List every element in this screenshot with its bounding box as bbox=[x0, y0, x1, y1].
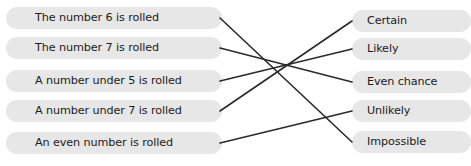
likelihood-pill-impossible[interactable]: Impossible bbox=[352, 131, 471, 153]
likelihood-pill-certain[interactable]: Certain bbox=[352, 10, 471, 32]
connection-line-under-7-certain[interactable] bbox=[220, 21, 352, 111]
likelihood-label: Unlikely bbox=[367, 105, 410, 116]
likelihood-label: Even chance bbox=[367, 76, 437, 87]
statement-label: A number under 5 is rolled bbox=[35, 75, 182, 86]
statement-label: The number 7 is rolled bbox=[35, 42, 159, 53]
statement-pill-under-5[interactable]: A number under 5 is rolled bbox=[6, 70, 222, 92]
connection-line-number-6-impossible[interactable] bbox=[220, 18, 352, 142]
statement-pill-number-6[interactable]: The number 6 is rolled bbox=[6, 7, 222, 29]
statement-label: A number under 7 is rolled bbox=[35, 105, 182, 116]
likelihood-pill-unlikely[interactable]: Unlikely bbox=[352, 100, 471, 122]
statement-label: An even number is rolled bbox=[35, 137, 173, 148]
statement-pill-number-7[interactable]: The number 7 is rolled bbox=[6, 37, 222, 59]
matching-worksheet: The number 6 is rolled The number 7 is r… bbox=[0, 0, 471, 166]
statement-pill-even-number[interactable]: An even number is rolled bbox=[6, 132, 222, 154]
left-statements-column: The number 6 is rolled The number 7 is r… bbox=[0, 0, 222, 166]
likelihood-label: Impossible bbox=[367, 136, 426, 147]
likelihood-pill-even-chance[interactable]: Even chance bbox=[352, 71, 471, 93]
connection-line-number-7-even-chance[interactable] bbox=[220, 48, 352, 82]
likelihood-pill-likely[interactable]: Likely bbox=[352, 38, 471, 60]
right-likelihood-column: Certain Likely Even chance Unlikely Impo… bbox=[352, 0, 471, 166]
connection-line-even-number-unlikely[interactable] bbox=[220, 111, 352, 143]
likelihood-label: Certain bbox=[367, 15, 407, 26]
connection-line-under-5-likely[interactable] bbox=[220, 49, 352, 81]
likelihood-label: Likely bbox=[367, 43, 398, 54]
statement-pill-under-7[interactable]: A number under 7 is rolled bbox=[6, 100, 222, 122]
statement-label: The number 6 is rolled bbox=[35, 12, 159, 23]
